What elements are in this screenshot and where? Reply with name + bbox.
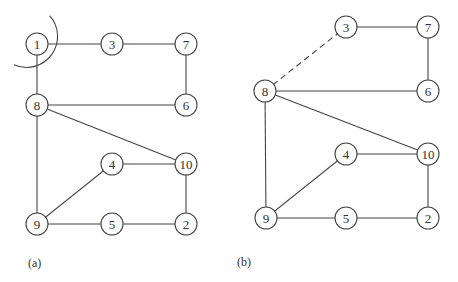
- node-label: 2: [425, 211, 432, 226]
- node-label: 8: [34, 98, 41, 113]
- node-label: 9: [34, 217, 41, 232]
- node-label: 3: [109, 37, 116, 52]
- node-b-2: 2: [417, 207, 439, 229]
- node-label: 7: [183, 37, 190, 52]
- node-a-7: 7: [175, 33, 197, 55]
- node-label: 5: [343, 211, 350, 226]
- node-label: 4: [343, 147, 350, 162]
- panel-label-b: (b): [237, 255, 251, 269]
- edge-b-8-9: [265, 91, 266, 218]
- node-label: 2: [183, 217, 190, 232]
- node-a-10: 10: [175, 153, 197, 175]
- node-label: 4: [109, 157, 116, 172]
- node-b-10: 10: [417, 143, 439, 165]
- node-label: 9: [263, 211, 270, 226]
- node-b-9: 9: [255, 207, 277, 229]
- node-label: 3: [343, 20, 350, 35]
- node-a-8: 8: [26, 94, 48, 116]
- node-b-7: 7: [417, 16, 439, 38]
- edge-b-8-3: [265, 27, 346, 91]
- panel-label-a: (a): [28, 256, 41, 270]
- node-a-5: 5: [101, 213, 123, 235]
- node-label: 6: [425, 84, 432, 99]
- node-label: 1: [34, 37, 41, 52]
- node-a-4: 4: [101, 153, 123, 175]
- graph-diagram: 137864109523786410952 (a)(b): [0, 0, 458, 282]
- node-label: 10: [422, 147, 435, 162]
- node-b-3: 3: [335, 16, 357, 38]
- node-b-6: 6: [417, 80, 439, 102]
- edges-layer: [37, 27, 428, 224]
- node-label: 7: [425, 20, 432, 35]
- node-a-2: 2: [175, 213, 197, 235]
- panel-labels-layer: (a)(b): [28, 255, 251, 270]
- node-a-6: 6: [175, 94, 197, 116]
- edge-b-9-4: [266, 154, 346, 218]
- node-b-5: 5: [335, 207, 357, 229]
- node-label: 5: [109, 217, 116, 232]
- node-label: 8: [262, 84, 269, 99]
- node-a-1: 1: [26, 33, 48, 55]
- node-b-8: 8: [254, 80, 276, 102]
- node-a-9: 9: [26, 213, 48, 235]
- node-label: 10: [180, 157, 193, 172]
- node-a-3: 3: [101, 33, 123, 55]
- node-label: 6: [183, 98, 190, 113]
- node-b-4: 4: [335, 143, 357, 165]
- edge-a-9-4: [37, 164, 112, 224]
